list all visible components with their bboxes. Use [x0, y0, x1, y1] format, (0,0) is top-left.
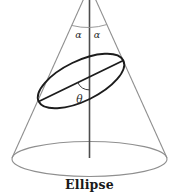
cone-right-edge [90, 0, 168, 158]
cross-section-group [30, 42, 132, 119]
alpha-label-right: α [94, 29, 101, 40]
theta-label: θ [76, 93, 83, 105]
cone-ellipse-figure: α α θ Ellipse [0, 0, 174, 193]
alpha-label-left: α [75, 29, 82, 40]
figure-caption: Ellipse [65, 177, 114, 192]
cone-left-edge [12, 0, 90, 158]
diagram-svg: α α θ Ellipse [0, 0, 174, 193]
theta-angle-arc [78, 83, 90, 90]
